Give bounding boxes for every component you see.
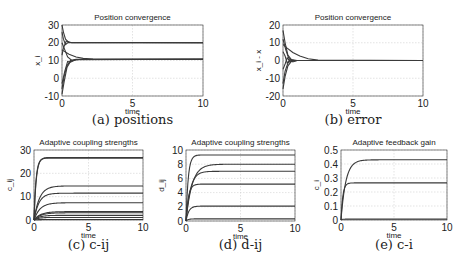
chart-e: 00.10.20.30.40.50510Adaptive feedback ga…: [312, 138, 453, 240]
x-tick-label: 10: [441, 222, 453, 233]
chart-title: Adaptive coupling strengths: [191, 138, 289, 147]
x-tick-label: 10: [289, 223, 301, 234]
y-tick-label: -10: [45, 91, 60, 102]
y-tick-label: -20: [266, 91, 281, 102]
y-tick-label: 20: [20, 168, 32, 179]
y-tick-label: 20: [48, 37, 60, 48]
y-tick-label: 8: [177, 159, 183, 170]
y-tick-label: 30: [48, 20, 60, 31]
x-tick-label: 10: [197, 98, 209, 109]
series-x4: [62, 50, 203, 59]
x-tick-label: 0: [31, 222, 37, 233]
caption-e: (e) c-i: [341, 237, 447, 252]
x-tick-label: 10: [417, 98, 429, 109]
x-tick-label: 10: [137, 222, 149, 233]
chart-title: Adaptive coupling strengths: [39, 138, 137, 147]
y-tick-label: 2: [177, 201, 183, 212]
y-axis-label: c_i: [312, 180, 321, 190]
y-tick-label: 0: [274, 55, 280, 66]
chart-title: Position convergence: [315, 13, 392, 22]
y-axis-label: c_ij: [5, 179, 14, 191]
y-tick-label: 0.2: [324, 187, 338, 198]
x-tick-label: 0: [338, 222, 344, 233]
chart-title: Adaptive feedback gain: [352, 138, 435, 147]
x-tick-label: 0: [183, 223, 189, 234]
caption-b: (b) error: [283, 112, 423, 127]
chart-d: 02468100510Adaptive coupling strengthsti…: [157, 138, 301, 241]
y-tick-label: 0.3: [324, 173, 338, 184]
y-tick-label: 0: [53, 73, 59, 84]
charts-canvas: -1001020300510Position convergencetimex_…: [0, 0, 467, 265]
y-tick-label: 0.1: [324, 201, 338, 212]
y-tick-label: 4: [177, 187, 183, 198]
figure: -1001020300510Position convergencetimex_…: [0, 0, 467, 265]
chart-b: -20-10010200510Position convergencetimex…: [254, 13, 429, 116]
y-axis-label: x_i - x: [254, 50, 263, 71]
y-tick-label: 0.5: [324, 145, 338, 156]
y-tick-label: 10: [20, 191, 32, 202]
y-tick-label: 20: [269, 20, 281, 31]
chart-a: -1001020300510Position convergencetimex_…: [33, 13, 209, 116]
y-tick-label: 30: [20, 145, 32, 156]
y-tick-label: 10: [48, 55, 60, 66]
x-tick-label: 0: [59, 98, 65, 109]
y-tick-label: -10: [266, 73, 281, 84]
caption-a: (a) positions: [62, 112, 203, 127]
y-axis-label: x_i: [33, 55, 42, 65]
chart-title: Position convergence: [94, 13, 171, 22]
caption-c: (c) c-ij: [34, 237, 143, 252]
x-tick-label: 0: [280, 98, 286, 109]
y-tick-label: 6: [177, 173, 183, 184]
chart-c: 01020300510Adaptive coupling strengthsti…: [5, 138, 149, 240]
y-tick-label: 10: [269, 37, 281, 48]
y-axis-label: d_ij: [157, 179, 166, 192]
caption-d: (d) d-ij: [186, 237, 295, 252]
y-tick-label: 10: [172, 145, 184, 156]
y-tick-label: 0.4: [324, 159, 338, 170]
